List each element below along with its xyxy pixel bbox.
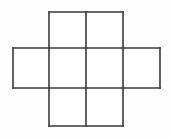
middle-far-right-cell bbox=[123, 48, 160, 88]
middle-left-cell bbox=[49, 48, 86, 88]
top-left-cell bbox=[49, 12, 86, 48]
bottom-right-cell bbox=[86, 88, 123, 126]
top-right-cell bbox=[86, 12, 123, 48]
middle-right-cell bbox=[86, 48, 123, 88]
middle-far-left-cell bbox=[13, 48, 49, 88]
cross-net-diagram bbox=[0, 0, 171, 139]
figure-canvas bbox=[0, 0, 171, 139]
bottom-left-cell bbox=[49, 88, 86, 126]
